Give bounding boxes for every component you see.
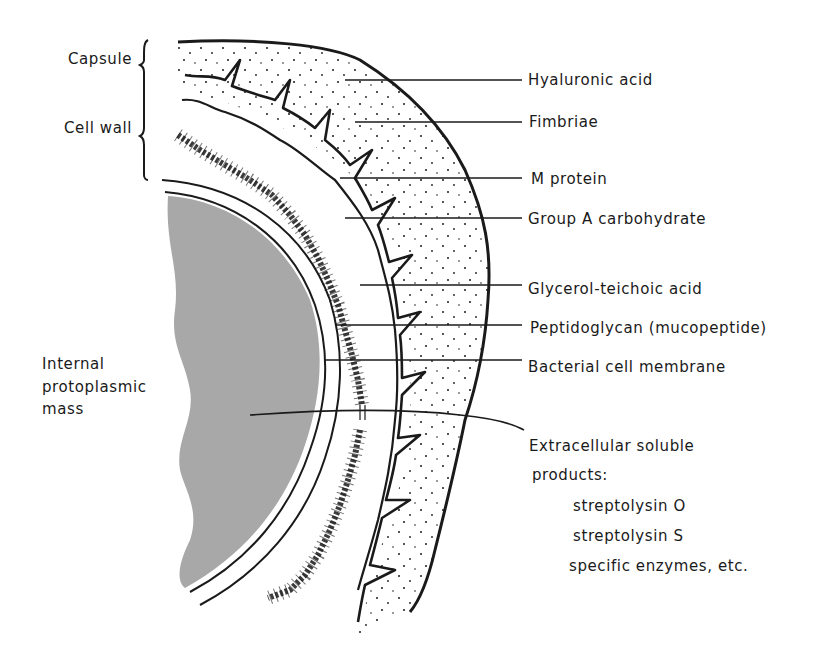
capsule-cellwall-bracket <box>140 40 148 180</box>
label-group-a-carbohydrate: Group A carbohydrate <box>528 210 706 228</box>
label-extracellular-heading-1: Extracellular soluble <box>529 437 694 455</box>
label-peptidoglycan: Peptidoglycan (mucopeptide) <box>530 319 767 337</box>
label-glycerol-teichoic-acid: Glycerol-teichoic acid <box>528 280 702 298</box>
label-specific-enzymes: specific enzymes, etc. <box>569 557 748 575</box>
label-cell-wall: Cell wall <box>40 119 132 137</box>
label-internal-line3: mass <box>42 400 84 418</box>
label-m-protein: M protein <box>531 170 607 188</box>
label-streptolysin-o: streptolysin O <box>573 497 686 515</box>
label-fimbriae: Fimbriae <box>529 113 598 131</box>
label-bacterial-cell-membrane: Bacterial cell membrane <box>528 358 726 376</box>
label-extracellular-heading-2: products: <box>532 466 608 484</box>
label-internal-line2: protoplasmic <box>42 378 147 396</box>
label-streptolysin-s: streptolysin S <box>573 527 684 545</box>
label-capsule: Capsule <box>50 50 132 68</box>
protoplasmic-mass <box>168 196 320 588</box>
label-hyaluronic-acid: Hyaluronic acid <box>528 71 653 89</box>
label-internal-line1: Internal <box>42 355 105 373</box>
